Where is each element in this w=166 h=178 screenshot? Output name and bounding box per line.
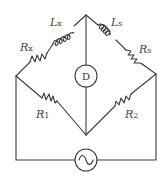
resistor-r1-icon [42,93,57,103]
label-r2: R2 [124,108,138,121]
resistor-rx-icon [30,53,47,62]
label-r1: R1 [35,108,49,121]
label-lx: Lx [49,16,62,29]
label-ls: Ls [110,16,122,29]
label-rs: Rs [138,43,151,56]
inductor-lx-icon [53,33,74,46]
resistor-r2-icon [115,94,131,106]
label-rx: Rx [19,41,33,54]
branch-bottom-left [16,76,86,135]
bridge-circuit-diagram: D Lx Ls Rx Rs R1 R2 [0,0,166,178]
branch-bottom-right [86,74,156,135]
sine-wave-icon [79,156,93,165]
detector-label: D [82,71,90,82]
circuit-svg: D Lx Ls Rx Rs R1 R2 [0,0,166,178]
detector-branch: D [75,15,97,135]
inductor-ls-icon [98,24,110,35]
